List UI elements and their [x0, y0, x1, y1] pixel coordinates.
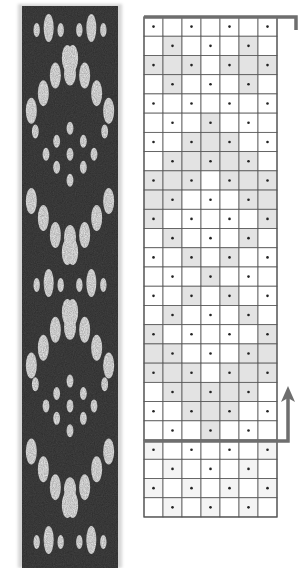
chart-cell — [201, 55, 220, 74]
chart-cell — [220, 267, 239, 286]
chart-cell — [144, 344, 163, 363]
cell-dot — [152, 295, 155, 298]
cell-dot — [266, 141, 269, 144]
chart-cell — [163, 402, 182, 421]
chart-cell — [258, 152, 277, 171]
cell-dot — [228, 179, 231, 182]
chart-cell — [182, 152, 201, 171]
chart-cell — [220, 498, 239, 517]
chart-cell — [220, 113, 239, 132]
chart-cell — [163, 440, 182, 459]
chart-cell — [220, 459, 239, 478]
cell-dot — [209, 314, 212, 317]
chart-cell — [144, 459, 163, 478]
cell-dot — [209, 391, 212, 394]
chart-cell — [220, 305, 239, 324]
cell-dot — [247, 506, 250, 509]
chart-cell — [201, 209, 220, 228]
chart-cell — [163, 479, 182, 498]
chart-cell — [258, 305, 277, 324]
cell-dot — [209, 83, 212, 86]
cell-dot — [247, 391, 250, 394]
cell-dot — [171, 314, 174, 317]
cell-dot — [209, 468, 212, 471]
chart-cell — [239, 286, 258, 305]
chart-cell — [144, 36, 163, 55]
cell-dot — [190, 179, 193, 182]
cell-dot — [152, 333, 155, 336]
chart-cell — [144, 190, 163, 209]
cell-dot — [171, 275, 174, 278]
chart-cell — [239, 440, 258, 459]
chart-cell — [239, 209, 258, 228]
chart-cell — [220, 36, 239, 55]
chart-cell — [201, 94, 220, 113]
cell-dot — [190, 410, 193, 413]
chart-cell — [258, 344, 277, 363]
cell-dot — [152, 218, 155, 221]
chart-cell — [163, 55, 182, 74]
chart-cell — [163, 325, 182, 344]
chart-cell — [182, 498, 201, 517]
chart-cell — [182, 421, 201, 440]
cell-dot — [190, 256, 193, 259]
cell-dot — [266, 487, 269, 490]
chart-cell — [144, 382, 163, 401]
cell-dot — [209, 506, 212, 509]
chart-cell — [220, 421, 239, 440]
chart-cell — [220, 75, 239, 94]
chart-cell — [239, 325, 258, 344]
chart-cell — [220, 382, 239, 401]
cell-dot — [152, 141, 155, 144]
chart-cell — [182, 344, 201, 363]
cell-dot — [190, 487, 193, 490]
cell-dot — [190, 448, 193, 451]
cell-dot — [228, 487, 231, 490]
chart-cell — [201, 325, 220, 344]
cell-dot — [171, 352, 174, 355]
cell-dot — [171, 83, 174, 86]
chart-cell — [144, 75, 163, 94]
chart-cell — [144, 152, 163, 171]
cell-dot — [209, 237, 212, 240]
cell-dot — [152, 256, 155, 259]
cell-dot — [266, 410, 269, 413]
chart-cell — [182, 75, 201, 94]
cell-dot — [171, 237, 174, 240]
chart-cell — [163, 209, 182, 228]
cell-dot — [209, 275, 212, 278]
chart-cell — [182, 459, 201, 478]
cell-dot — [266, 25, 269, 28]
chart-cell — [182, 382, 201, 401]
cell-dot — [171, 468, 174, 471]
chart-cell — [239, 17, 258, 36]
cell-dot — [228, 448, 231, 451]
cell-dot — [247, 83, 250, 86]
cell-dot — [171, 506, 174, 509]
chart-cell — [239, 363, 258, 382]
chart-cell — [182, 229, 201, 248]
chart-cell — [220, 344, 239, 363]
cell-dot — [190, 102, 193, 105]
cell-dot — [228, 25, 231, 28]
chart-cell — [201, 17, 220, 36]
chart-cell — [201, 286, 220, 305]
chart-cell — [239, 248, 258, 267]
cell-dot — [266, 218, 269, 221]
cell-dot — [266, 256, 269, 259]
cell-dot — [209, 352, 212, 355]
cell-dot — [247, 160, 250, 163]
chart-cell — [258, 267, 277, 286]
chart-cell — [144, 421, 163, 440]
chart-cell — [239, 479, 258, 498]
cell-dot — [247, 198, 250, 201]
chart-cell — [258, 36, 277, 55]
cell-dot — [171, 198, 174, 201]
chart-cell — [182, 113, 201, 132]
cell-dot — [266, 64, 269, 67]
cell-dot — [171, 391, 174, 394]
chart-cell — [201, 171, 220, 190]
cell-dot — [152, 64, 155, 67]
cell-dot — [190, 333, 193, 336]
cell-dot — [171, 45, 174, 48]
